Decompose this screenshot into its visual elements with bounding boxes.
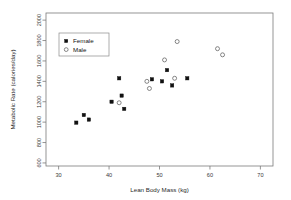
data-point-female [87,118,90,121]
data-point-female [160,80,163,83]
data-point-female [75,121,78,124]
data-point-female [122,107,125,110]
scatter-plot-figure: 3040506070 60080010001200140016001800200… [0,0,291,200]
data-point-female [150,78,153,81]
x-tick-label: 70 [257,172,263,178]
data-point-female [120,94,123,97]
data-point-female [186,77,189,80]
y-tick-label: 1800 [37,34,43,46]
y-tick-label: 1400 [37,75,43,87]
x-axis-title: Lean Body Mass (kg) [130,186,188,193]
y-tick-label: 1200 [37,96,43,108]
data-point-female [165,68,168,71]
legend[interactable]: Female Male [59,33,109,56]
figure-background [0,0,291,200]
legend-label-male: Male [73,46,87,53]
legend-label-female: Female [73,37,94,44]
x-tick-label: 60 [207,172,213,178]
legend-marker-female [65,39,68,42]
plot-canvas: 3040506070 60080010001200140016001800200… [0,0,291,200]
data-point-female [110,100,113,103]
y-tick-label: 1600 [37,55,43,67]
x-tick-label: 30 [55,172,61,178]
y-tick-label: 2000 [37,14,43,26]
x-tick-label: 40 [106,172,112,178]
y-tick-label: 800 [37,138,43,147]
x-tick-label: 50 [156,172,162,178]
data-point-female [82,113,85,116]
y-tick-label: 600 [37,158,43,167]
data-point-female [170,84,173,87]
y-axis-title: Metabolic Rate (calories/day) [9,49,16,129]
y-tick-label: 1000 [37,116,43,128]
data-point-female [117,77,120,80]
